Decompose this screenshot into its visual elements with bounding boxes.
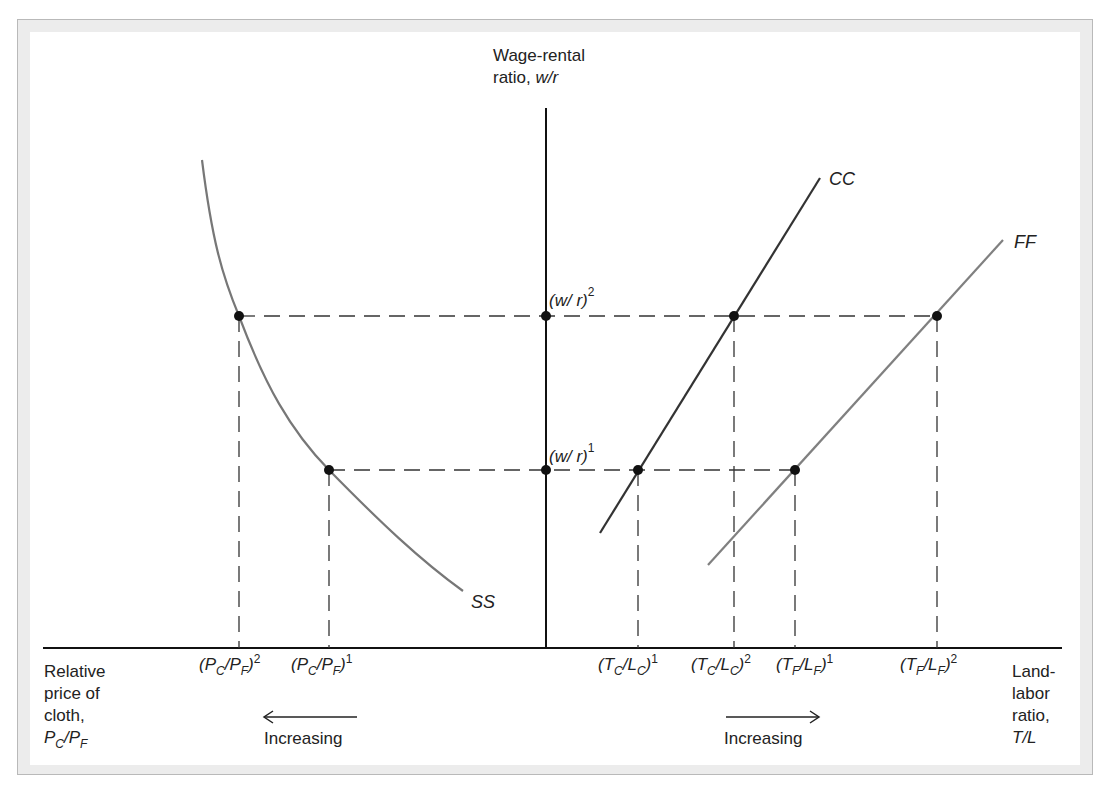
left-label-line2: price of <box>44 684 100 703</box>
x-axis-left-label: Relative price of cloth, PC/PF <box>44 662 105 751</box>
y-axis-label-line2: ratio, w/r <box>493 68 560 87</box>
dashed-guides <box>239 316 937 648</box>
tick-pcpf1: (PC/PF)1 <box>291 652 353 678</box>
point-axis-wr2 <box>541 311 551 321</box>
right-increasing-arrow: Increasing <box>724 711 819 748</box>
left-label-line4: PC/PF <box>44 728 88 751</box>
left-arrow-label: Increasing <box>264 729 342 748</box>
ff-label: FF <box>1014 232 1037 252</box>
point-ss-1 <box>324 465 334 475</box>
point-ff-1 <box>790 465 800 475</box>
wr2-label: (w/ r)2 <box>549 285 595 310</box>
left-label-line1: Relative <box>44 662 105 681</box>
left-label-line3: cloth, <box>44 706 85 725</box>
ss-curve <box>202 160 463 591</box>
x-axis-right-label: Land- labor ratio, T/L <box>1012 662 1055 747</box>
tick-tflf1: (TF/LF)1 <box>776 652 834 678</box>
left-increasing-arrow: Increasing <box>264 711 357 748</box>
cc-curve <box>600 178 820 533</box>
right-label-line2: labor <box>1012 684 1050 703</box>
tick-pcpf2: (PC/PF)2 <box>199 652 261 678</box>
ss-label: SS <box>471 592 495 612</box>
wr1-label: (w/ r)1 <box>549 441 595 466</box>
point-cc-2 <box>729 311 739 321</box>
tick-tclc1: (TC/LC)1 <box>598 652 658 678</box>
point-axis-wr1 <box>541 465 551 475</box>
tick-tclc2: (TC/LC)2 <box>691 652 751 678</box>
right-label-line4: T/L <box>1012 728 1037 747</box>
right-label-line3: ratio, <box>1012 706 1050 725</box>
point-ff-2 <box>932 311 942 321</box>
right-label-line1: Land- <box>1012 662 1055 681</box>
y-axis-label-line1: Wage-rental <box>493 46 585 65</box>
right-arrow-label: Increasing <box>724 729 802 748</box>
factor-price-diagram: Wage-rental ratio, w/r (w/ r)2 (w/ r)1 C… <box>0 0 1111 785</box>
point-cc-1 <box>633 465 643 475</box>
cc-label: CC <box>829 169 856 189</box>
point-ss-2 <box>234 311 244 321</box>
tick-tflf2: (TF/LF)2 <box>900 652 958 678</box>
